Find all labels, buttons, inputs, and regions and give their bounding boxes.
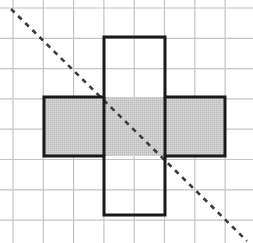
shaded-bar: [44, 97, 225, 156]
shaded-squares: [44, 97, 225, 156]
figure-canvas: [0, 0, 253, 243]
figure-root: [0, 0, 253, 243]
